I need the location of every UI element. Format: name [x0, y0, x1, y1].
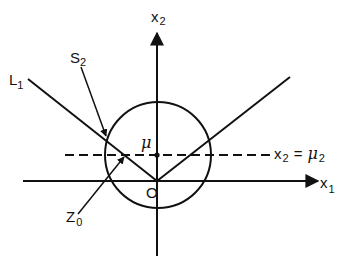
origin-point: [155, 179, 158, 182]
x1-axis-label: x1: [320, 174, 335, 195]
l1-label: L1: [9, 71, 23, 91]
origin-label: O: [146, 184, 158, 201]
line-l1-left: [28, 79, 157, 181]
mu-point: [154, 152, 159, 157]
z0-pointer-arrow: [78, 157, 124, 214]
dashed-line-label: x2=μ2: [274, 144, 325, 164]
x2-axis-label: x2: [151, 8, 166, 27]
mu-label: μ: [141, 133, 151, 152]
diagram: x2 x1 L1 S2 Z0 μ O x2=μ2: [0, 0, 348, 265]
s2-pointer-arrow: [81, 67, 106, 136]
s2-label: S2: [70, 49, 86, 68]
line-l1-right: [157, 77, 290, 181]
